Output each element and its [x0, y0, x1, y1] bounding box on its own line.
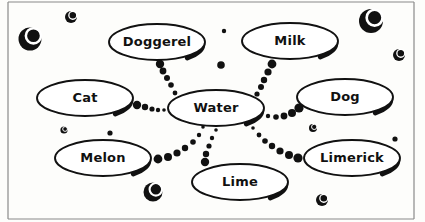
- edge-dot: [164, 153, 172, 161]
- decorative-bubble: [392, 136, 397, 141]
- decorative-bubble: [144, 183, 163, 202]
- edge-dot: [281, 113, 288, 120]
- edge-dot: [257, 133, 262, 138]
- bubble-disc: [107, 130, 112, 135]
- decorative-bubble: [217, 61, 225, 69]
- edge-dot: [160, 68, 167, 75]
- decorative-bubble: [107, 130, 112, 135]
- edge-dot: [164, 75, 170, 81]
- edge-dot: [261, 77, 267, 83]
- edge-dot: [258, 84, 264, 90]
- edge-dot: [276, 147, 283, 154]
- decorative-bubble: [60, 126, 67, 133]
- edge-dot: [168, 82, 174, 88]
- edge-dot: [156, 60, 164, 68]
- decorative-bubble: [65, 11, 77, 23]
- decorative-bubble: [316, 194, 328, 206]
- edge-dot: [142, 104, 148, 110]
- decorative-bubble: [359, 9, 383, 33]
- edge-dot: [254, 91, 259, 96]
- edge-dot: [203, 151, 209, 157]
- decorative-bubble: [309, 124, 317, 132]
- edge-dot: [269, 143, 275, 149]
- node-label: Water: [193, 100, 238, 115]
- edge-dot: [154, 155, 163, 164]
- edge-dot: [264, 68, 271, 75]
- edge-dot: [173, 149, 180, 156]
- node-label: Cat: [72, 90, 97, 105]
- edge-dot: [293, 153, 302, 162]
- decorative-bubble: [222, 29, 226, 33]
- node-label: Milk: [274, 33, 305, 48]
- bubble-disc: [392, 136, 397, 141]
- edge-dot: [273, 114, 279, 120]
- node-label: Limerick: [320, 150, 384, 165]
- edge-dot: [162, 108, 166, 112]
- edge-dot: [201, 158, 209, 166]
- edge-dot: [288, 109, 296, 117]
- edge-dot: [173, 91, 178, 96]
- concept-map-svg: DoggerelMilkCatWaterDogMelonLimerickLime: [0, 0, 425, 222]
- edge-dot: [266, 114, 270, 118]
- node-label: Melon: [80, 150, 125, 165]
- edge-dot: [251, 126, 255, 130]
- edge-dot: [182, 145, 188, 151]
- concept-map-canvas: DoggerelMilkCatWaterDogMelonLimerickLime: [0, 0, 425, 222]
- edge-dot: [190, 139, 196, 145]
- decorative-bubble: [393, 49, 405, 61]
- bubble-disc: [222, 29, 226, 33]
- edge-dot: [285, 151, 293, 159]
- bubble-disc: [217, 61, 225, 69]
- edge-dot: [133, 101, 141, 109]
- edge-dot: [268, 60, 277, 69]
- edge-dot: [262, 138, 268, 144]
- edge-dot: [214, 128, 218, 132]
- node-label: Doggerel: [123, 34, 191, 49]
- edge-dot: [149, 106, 154, 111]
- edge-dot: [210, 136, 214, 140]
- edge-dot: [206, 143, 211, 148]
- edge-dot: [156, 108, 160, 112]
- decorative-bubble: [19, 28, 42, 51]
- node-label: Dog: [330, 89, 360, 104]
- node-label: Lime: [222, 174, 258, 189]
- edge-dot: [197, 133, 201, 137]
